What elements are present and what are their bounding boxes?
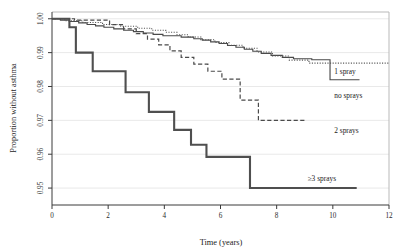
y-tick-label: 0.96 [37,148,45,161]
series-label-2-sprays: 2 sprays [334,126,359,135]
plot-frame [52,12,389,205]
x-tick-label: 0 [50,212,54,220]
series-label-no-sprays: no sprays [334,91,362,100]
x-tick-label: 2 [106,212,110,220]
curves-layer [52,19,389,188]
x-axis-title: Time (years) [200,238,243,247]
x-tick-label: 4 [163,212,167,220]
chart-canvas: 0246810120.950.960.970.980.991.00 no spr… [0,0,406,252]
x-tick-label: 6 [219,212,223,220]
y-axis-title: Proportion without asthma [9,63,18,153]
series-labels-layer: no sprays1 spray2 sprays≥3 sprays [308,67,363,183]
curve-2-sprays [52,19,306,121]
x-tick-label: 10 [329,212,337,220]
y-tick-label: 0.97 [37,114,45,127]
series-label-3-or-more-sprays: ≥3 sprays [308,174,337,183]
y-tick-label: 1.00 [37,12,45,25]
series-label-1-spray: 1 spray [334,67,356,76]
survival-chart: 0246810120.950.960.970.980.991.00 no spr… [0,0,406,252]
grid-layer [52,19,389,188]
y-tick-label: 0.99 [37,46,45,59]
axis-ticks [48,19,389,209]
curve-3-or-more-sprays [52,19,357,188]
x-tick-label: 8 [275,212,279,220]
x-tick-label: 12 [385,212,393,220]
y-tick-label: 0.95 [37,181,45,194]
y-tick-label: 0.98 [37,80,45,93]
